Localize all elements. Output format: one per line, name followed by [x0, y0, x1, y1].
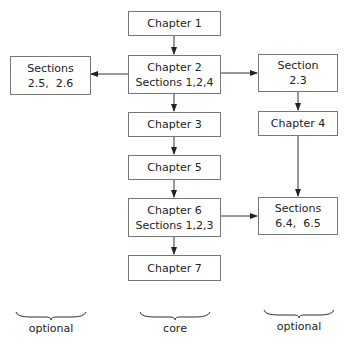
- node-chapter-6: Chapter 6 Sections 1,2,3: [128, 198, 221, 237]
- node-chapter-3: Chapter 3: [128, 112, 221, 137]
- node-label: Chapter 4: [271, 116, 325, 131]
- node-label: Chapter 1: [147, 16, 201, 31]
- node-sublabel: 2.3: [289, 73, 307, 88]
- node-section-2-3: Section 2.3: [258, 54, 338, 92]
- brace-core: [140, 312, 210, 320]
- node-sublabel: 6.4, 6.5: [275, 216, 320, 231]
- node-label: Chapter 2: [147, 60, 201, 75]
- column-label-core: core: [130, 322, 220, 335]
- node-label: Chapter 6: [147, 203, 201, 218]
- node-chapter-2: Chapter 2 Sections 1,2,4: [128, 55, 221, 94]
- node-sublabel: 2.5, 2.6: [28, 76, 73, 91]
- node-label: Chapter 3: [147, 117, 201, 132]
- node-chapter-5: Chapter 5: [128, 155, 221, 180]
- node-chapter-1: Chapter 1: [128, 11, 221, 36]
- node-label: Chapter 7: [147, 261, 201, 276]
- node-sections-2-5-2-6: Sections 2.5, 2.6: [10, 56, 91, 95]
- node-label: Chapter 5: [147, 160, 201, 175]
- brace-optional-right: [264, 310, 334, 318]
- column-label-optional-left: optional: [6, 322, 96, 335]
- column-label-optional-right: optional: [254, 320, 344, 333]
- brace-optional-left: [16, 312, 86, 320]
- node-label: Sections: [275, 201, 322, 216]
- node-sublabel: Sections 1,2,3: [135, 218, 213, 233]
- node-chapter-7: Chapter 7: [128, 255, 221, 281]
- node-label: Section: [278, 58, 319, 73]
- node-sections-6-4-6-5: Sections 6.4, 6.5: [258, 197, 338, 235]
- node-chapter-4: Chapter 4: [258, 111, 338, 136]
- node-sublabel: Sections 1,2,4: [135, 75, 213, 90]
- node-label: Sections: [27, 61, 74, 76]
